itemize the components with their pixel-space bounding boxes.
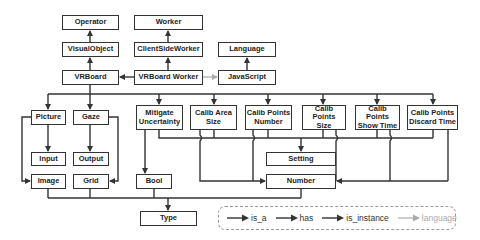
legend-label-has: has (300, 213, 314, 223)
node-bool: Bool (136, 174, 172, 189)
node-picture: Picture (31, 110, 66, 125)
legend-item-has: has (276, 213, 314, 223)
node-image: Image (31, 174, 66, 189)
node-javascript: JavaScript (218, 70, 276, 85)
node-operator: Operator (62, 15, 119, 30)
legend-item-is-a: is_a (227, 213, 267, 223)
node-calib-points-show-time: Calib Points Show Time (355, 105, 400, 130)
legend-item-is-instance: is_instance (322, 213, 389, 223)
node-worker: Worker (134, 15, 203, 30)
node-mitigate-uncertainty: Mitigate Uncertainty (136, 105, 183, 130)
node-language: Language (218, 42, 276, 57)
node-vrboard-worker: VRBoard Worker (134, 70, 203, 85)
legend-label-is-instance: is_instance (346, 213, 389, 223)
node-type: Type (140, 211, 197, 226)
node-input: Input (31, 152, 66, 166)
node-vrboard: VRBoard (62, 70, 119, 85)
node-visual-object: VisualObject (62, 42, 119, 57)
node-gaze: Gaze (73, 110, 109, 125)
arrow-icon (322, 214, 344, 222)
arrow-icon (398, 214, 420, 222)
node-client-side-worker: ClientSideWorker (134, 42, 203, 57)
legend-label-language: language (422, 213, 457, 223)
node-calib-area-size: Calib Area Size (190, 105, 237, 130)
node-calib-points-size: Calib Points Size (302, 105, 346, 130)
arrow-icon (276, 214, 298, 222)
legend-label-is-a: is_a (251, 213, 267, 223)
node-number: Number (266, 174, 336, 189)
legend-item-language: language (398, 213, 457, 223)
node-grid: Grid (73, 174, 109, 189)
node-setting: Setting (266, 152, 336, 166)
legend: is_a has is_instance language (218, 206, 456, 230)
node-calib-points-number: Calib Points Number (245, 105, 292, 130)
node-calib-points-discard-time: Calib Points Discard Time (407, 105, 458, 130)
arrow-icon (227, 214, 249, 222)
ontology-diagram: Operator Worker VisualObject ClientSideW… (0, 0, 480, 240)
node-output: Output (73, 152, 109, 166)
